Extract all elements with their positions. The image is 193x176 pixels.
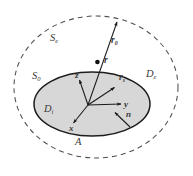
- label-inner-surface: S0: [32, 71, 41, 82]
- label-exterior-domain-base: D: [146, 68, 154, 79]
- geometry-diagram-canvas: [0, 0, 193, 176]
- label-normal-n: n: [126, 110, 131, 119]
- label-exterior-domain-sub: e: [154, 73, 157, 80]
- label-axis-z-base: z: [75, 70, 79, 80]
- label-area: A: [75, 137, 81, 148]
- label-axis-y: y: [124, 100, 128, 109]
- label-vector-r: r: [104, 56, 108, 66]
- label-inner-surface-sub: 0: [37, 75, 40, 82]
- label-vector-r0-sub: 0: [115, 40, 118, 46]
- label-area-base: A: [75, 136, 81, 147]
- label-outer-surface-sub: e: [55, 37, 58, 44]
- label-axis-z: z: [75, 71, 79, 80]
- label-interior-domain-sub: i: [52, 108, 54, 115]
- label-axis-y-base: y: [124, 99, 128, 109]
- label-vector-rs-sub: s: [123, 77, 125, 83]
- label-exterior-domain: De: [146, 69, 156, 80]
- label-vector-rs: rs: [119, 73, 125, 84]
- label-axis-x: x: [69, 124, 74, 133]
- label-axis-x-base: x: [69, 123, 74, 133]
- label-outer-surface: Se: [50, 33, 58, 44]
- label-vector-r-base: r: [104, 55, 108, 65]
- vector-r-point-marker: [95, 60, 100, 65]
- label-interior-domain-base: D: [44, 103, 52, 114]
- label-normal-n-base: n: [126, 109, 131, 119]
- label-vector-r0: r0: [111, 36, 118, 47]
- label-interior-domain: Di: [44, 104, 53, 115]
- figure-container: Se S0 De Di A r0 r rs z y x n: [0, 0, 193, 176]
